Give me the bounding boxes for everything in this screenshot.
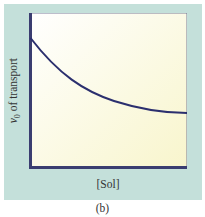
plot-area — [29, 13, 187, 169]
figure-caption: (b) — [0, 202, 205, 214]
x-axis-label: [Sol] — [29, 178, 187, 190]
y-axis-label: v0 of transport — [2, 13, 28, 169]
plot-background — [29, 13, 187, 169]
